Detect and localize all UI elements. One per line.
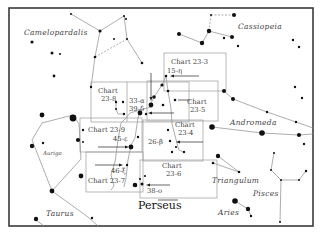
label-triangulum: Triangulum: [212, 176, 259, 185]
chart-label-23-3[interactable]: Chart 23-3: [171, 58, 208, 66]
label-auriga: Auriga: [42, 150, 62, 157]
chart-label-23-4-num[interactable]: 23-4: [178, 129, 193, 137]
star-label-33-alpha: 33-α: [129, 97, 145, 105]
chart-label-23-7[interactable]: Chart 23-7: [88, 177, 125, 185]
chart-label-23-5[interactable]: Chart: [187, 98, 207, 106]
label-pisces: Pisces: [252, 189, 279, 198]
chart-label-23-4[interactable]: Chart: [175, 121, 195, 129]
figure-title: Perseus: [138, 199, 182, 212]
chart-label-23-9[interactable]: Chart 23-9: [88, 126, 125, 134]
perseus-star-chart: Camelopardalis Cassiopeia Andromeda Auri…: [0, 0, 320, 236]
star-label-38-omicron: 38-ο: [147, 187, 162, 195]
star-label-45-epsilon: 45-ε: [113, 135, 128, 143]
chart-label-23-6-num[interactable]: 23-6: [166, 170, 181, 178]
label-aries: Aries: [217, 208, 239, 217]
chart-label-23-6[interactable]: Chart: [162, 162, 182, 170]
chart-label-23-5-num[interactable]: 23-5: [190, 106, 205, 114]
label-cassiopeia: Cassiopeia: [238, 22, 282, 31]
star-label-46-xi: 46-ξ: [111, 167, 126, 175]
star-label-26-beta: 26-β: [148, 138, 163, 146]
label-andromeda: Andromeda: [229, 118, 277, 127]
star-label-15-eta: 15-η: [167, 67, 182, 75]
star-label-39-delta: 39-δ: [129, 105, 144, 113]
chart-label-23-8[interactable]: Chart: [98, 87, 118, 95]
chart-label-23-8-num[interactable]: 23-8: [101, 95, 116, 103]
label-camelopardalis: Camelopardalis: [24, 28, 88, 37]
label-taurus: Taurus: [46, 209, 74, 218]
